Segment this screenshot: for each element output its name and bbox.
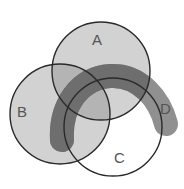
set-b-label: B (17, 103, 27, 120)
set-a-label: A (92, 31, 102, 48)
set-c-label: C (114, 149, 125, 166)
venn-diagram: A B C D (0, 0, 184, 189)
set-d-label: D (160, 100, 171, 117)
